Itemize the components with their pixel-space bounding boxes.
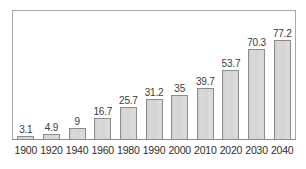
x-axis-tick-labels: 1900 1920 1940 1960 1980 1990 2000 2010 … [13,143,295,157]
x-tick-label: 1920 [39,143,65,157]
bar-rect [120,107,137,140]
bar-value-label: 35 [174,83,185,94]
bar-group: 3.1 [13,11,39,140]
bar-group: 16.7 [90,11,116,140]
x-tick-label: 1980 [116,143,142,157]
bar-value-label: 31.2 [145,87,164,98]
bar-rect [146,99,163,140]
x-tick-label: 1990 [141,143,167,157]
bar-group: 31.2 [141,11,167,140]
bar-group: 39.7 [192,11,218,140]
bar-rect [171,95,188,141]
bar-rect [197,88,214,140]
x-tick-label: 2020 [218,143,244,157]
bar-chart: 3.1 4.9 9 16.7 25.7 31.2 35 39.7 [0,0,306,169]
bar-group: 9 [64,11,90,140]
bar-value-label: 3.1 [19,124,32,135]
x-tick-label: 2040 [269,143,295,157]
bar-rect [248,49,265,140]
bar-value-label: 77.2 [273,28,292,39]
bar-group: 35 [167,11,193,140]
bar-group: 53.7 [218,11,244,140]
bar-value-label: 16.7 [93,106,112,117]
bar-value-label: 70.3 [247,37,266,48]
bar-value-label: 25.7 [119,95,138,106]
bar-rect [222,70,239,140]
x-tick-label: 1940 [64,143,90,157]
x-tick-label: 1960 [90,143,116,157]
x-tick-label: 1900 [13,143,39,157]
bar-value-label: 4.9 [45,122,58,133]
bar-value-label: 53.7 [222,58,241,69]
bar-group: 77.2 [269,11,295,140]
bar-group: 4.9 [39,11,65,140]
bars-container: 3.1 4.9 9 16.7 25.7 31.2 35 39.7 [13,11,295,140]
bar-group: 25.7 [116,11,142,140]
bar-group: 70.3 [244,11,270,140]
x-axis-line [12,139,296,140]
x-tick-label: 2030 [244,143,270,157]
x-tick-label: 2010 [192,143,218,157]
bar-rect [94,118,111,140]
bar-value-label: 39.7 [196,76,215,87]
x-tick-label: 2000 [167,143,193,157]
bar-rect [274,40,291,140]
bar-value-label: 9 [74,116,79,127]
